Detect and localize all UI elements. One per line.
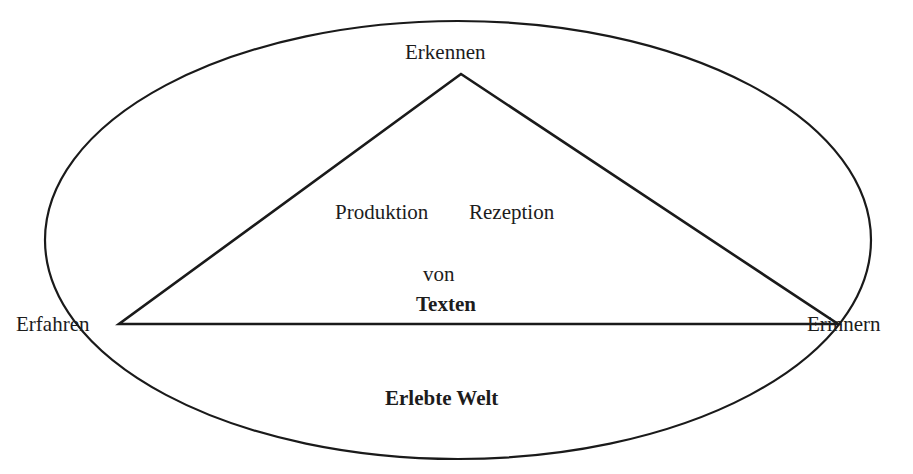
vertex-label-left: Erfahren [16,314,89,335]
center-label-produktion: Produktion [335,202,428,223]
inner-triangle [119,74,838,324]
vertex-label-right: Erinnern [807,314,880,335]
ellipse-label-erlebte-welt: Erlebte Welt [385,388,498,409]
center-label-rezeption: Rezeption [469,202,554,223]
vertex-label-top: Erkennen [405,42,485,63]
center-label-texten: Texten [416,294,476,315]
center-label-von: von [423,264,455,285]
